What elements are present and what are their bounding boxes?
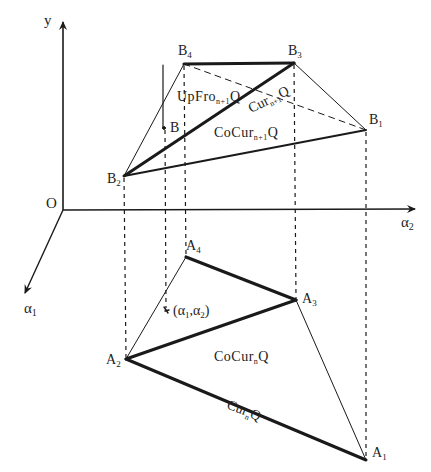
label-alpha1: α1	[24, 300, 37, 318]
edge-a4-a3	[186, 257, 296, 300]
alpha2-axis	[63, 209, 415, 210]
projection-lines	[124, 65, 366, 458]
label-a2: A2	[106, 352, 121, 369]
label-b3: B3	[288, 43, 302, 60]
proj-line-3	[294, 65, 296, 298]
label-b2: B2	[107, 171, 121, 188]
edge-b4-b3	[184, 63, 294, 64]
label-alpha-point: (α1,α2)	[173, 303, 210, 320]
label-cur-n: CurnQ	[224, 397, 263, 426]
label-b1: B1	[369, 112, 383, 129]
label-b: B	[170, 120, 179, 135]
label-a3: A3	[302, 291, 317, 308]
label-a4: A4	[186, 238, 201, 255]
proj-line-b	[165, 130, 166, 308]
alpha1-axis	[25, 210, 63, 293]
b-point	[163, 127, 166, 130]
label-alpha2: α2	[401, 214, 414, 232]
edge-b3-b1	[294, 63, 366, 130]
label-cocur-n1: CoCurn+1Q	[214, 125, 278, 142]
label-cur-n1: Curn+1Q	[246, 83, 293, 117]
label-y: y	[44, 12, 52, 28]
edge-a2-a3	[126, 300, 296, 359]
upper-figure	[124, 63, 366, 176]
projection-diagram: y O α2 α1 B4 B3 B1 B2 B A4 A3 A2 A1 (α1,…	[0, 0, 431, 472]
label-origin: O	[46, 195, 57, 211]
label-a1: A1	[372, 445, 387, 462]
label-cocur-n: CoCurnQ	[214, 349, 269, 366]
proj-line-2	[124, 178, 126, 357]
label-upfro: UpFron+1Q	[177, 89, 241, 106]
label-b4: B4	[178, 43, 192, 60]
